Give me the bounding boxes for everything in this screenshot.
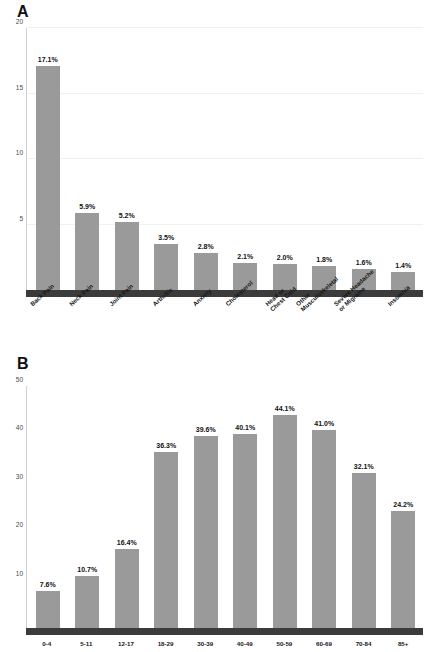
bar[interactable]: 41.0% xyxy=(312,430,336,628)
y-axis-tick-label: 40 xyxy=(16,424,23,431)
bar[interactable]: 7.6% xyxy=(36,591,60,628)
bar-slot: 1.8% xyxy=(305,28,345,290)
bar-value-label: 1.4% xyxy=(395,262,411,270)
bar[interactable]: 3.5% xyxy=(154,244,178,290)
bar-slot: 10.7% xyxy=(68,386,108,628)
x-tick-slot: 12-17 xyxy=(106,638,146,652)
x-tick-slot: Cholesterol xyxy=(225,298,265,344)
bar-value-label: 2.8% xyxy=(198,243,214,251)
bar[interactable]: 39.6% xyxy=(194,436,218,628)
panel-b-axis-baseline xyxy=(26,628,423,635)
bar[interactable]: 17.1% xyxy=(36,66,60,290)
bar[interactable]: 16.4% xyxy=(115,549,139,628)
bar-series: 7.6%10.7%16.4%36.3%39.6%40.1%44.1%41.0%3… xyxy=(28,386,423,628)
x-tick-slot: Back Pain xyxy=(27,298,67,344)
bar-slot: 16.4% xyxy=(107,386,147,628)
y-axis-tick-label: 20 xyxy=(16,521,23,528)
bar[interactable]: 44.1% xyxy=(273,415,297,628)
x-axis-tick-label: 85+ xyxy=(383,640,423,648)
x-tick-slot: Insomnia xyxy=(383,298,423,344)
x-tick-slot: Joint Pain xyxy=(106,298,146,344)
y-axis-tick-label: 10 xyxy=(16,149,23,156)
panel-a-x-tick-labels: Back PainNeck PainJoint PainArthritisAnx… xyxy=(27,298,423,344)
panel-b: B 10203040507.6%10.7%16.4%36.3%39.6%40.1… xyxy=(0,350,425,652)
bar[interactable]: 5.9% xyxy=(75,213,99,290)
bar-value-label: 2.0% xyxy=(277,254,293,262)
bar-slot: 36.3% xyxy=(147,386,187,628)
bar-value-label: 44.1% xyxy=(275,405,295,413)
y-axis-tick-label: 10 xyxy=(16,569,23,576)
bar-slot: 1.4% xyxy=(384,28,424,290)
x-tick-slot: Severe Headacheor Migraine xyxy=(344,298,384,344)
bar-slot: 2.8% xyxy=(186,28,226,290)
x-axis-tick-label: 0-4 xyxy=(27,640,67,648)
x-tick-slot: Neck Pain xyxy=(67,298,107,344)
bar-value-label: 41.0% xyxy=(314,420,334,428)
y-axis-tick-label: 30 xyxy=(16,472,23,479)
y-axis-tick-label: 5 xyxy=(19,214,23,221)
bar-slot: 2.1% xyxy=(226,28,266,290)
bar[interactable]: 24.2% xyxy=(391,511,415,628)
bar-value-label: 16.4% xyxy=(117,539,137,547)
bar-value-label: 17.1% xyxy=(38,56,58,64)
x-tick-slot: 5-11 xyxy=(67,638,107,652)
x-tick-slot: 60-69 xyxy=(304,638,344,652)
x-axis-tick-label: 12-17 xyxy=(106,640,146,648)
bar-slot: 40.1% xyxy=(226,386,266,628)
panel-a-plot-area: 510152017.1%5.9%5.2%3.5%2.8%2.1%2.0%1.8%… xyxy=(26,28,423,290)
bar-slot: 32.1% xyxy=(344,386,384,628)
y-axis-tick-label: 20 xyxy=(16,18,23,25)
bar-value-label: 3.5% xyxy=(158,234,174,242)
bar-slot: 5.2% xyxy=(107,28,147,290)
bar-value-label: 1.8% xyxy=(316,256,332,264)
bar[interactable]: 2.8% xyxy=(194,253,218,290)
panel-a: A 510152017.1%5.9%5.2%3.5%2.8%2.1%2.0%1.… xyxy=(0,0,425,348)
x-tick-slot: 85+ xyxy=(383,638,423,652)
bar-series: 17.1%5.9%5.2%3.5%2.8%2.1%2.0%1.8%1.6%1.4… xyxy=(28,28,423,290)
bar-value-label: 10.7% xyxy=(77,566,97,574)
x-tick-slot: 0-4 xyxy=(27,638,67,652)
x-tick-slot: 18-29 xyxy=(146,638,186,652)
bar-slot: 7.6% xyxy=(28,386,68,628)
panel-b-letter: B xyxy=(17,356,29,372)
bar-value-label: 5.2% xyxy=(119,212,135,220)
x-tick-slot: 40-49 xyxy=(225,638,265,652)
bar-slot: 3.5% xyxy=(147,28,187,290)
bar-value-label: 1.6% xyxy=(356,259,372,267)
x-tick-slot: 50-59 xyxy=(265,638,305,652)
bar-slot: 5.9% xyxy=(68,28,108,290)
x-axis-tick-label: 60-69 xyxy=(304,640,344,648)
bar-value-label: 36.3% xyxy=(156,442,176,450)
figure-container: A 510152017.1%5.9%5.2%3.5%2.8%2.1%2.0%1.… xyxy=(0,0,425,652)
x-axis-tick-label: 50-59 xyxy=(265,640,305,648)
y-axis-tick-label: 15 xyxy=(16,83,23,90)
bar[interactable]: 36.3% xyxy=(154,452,178,628)
bar-slot: 24.2% xyxy=(384,386,424,628)
x-tick-slot: Arthritis xyxy=(146,298,186,344)
bar-value-label: 40.1% xyxy=(235,424,255,432)
x-axis-tick-label: 40-49 xyxy=(225,640,265,648)
bar-value-label: 32.1% xyxy=(354,463,374,471)
x-axis-tick-label: 30-39 xyxy=(185,640,225,648)
x-axis-tick-label: 70-84 xyxy=(344,640,384,648)
bar-slot: 39.6% xyxy=(186,386,226,628)
x-tick-slot: Anxiety xyxy=(185,298,225,344)
bar[interactable]: 40.1% xyxy=(233,434,257,628)
bar[interactable]: 32.1% xyxy=(352,473,376,628)
panel-b-x-tick-labels: 0-45-1112-1718-2930-3940-4950-5960-6970-… xyxy=(27,638,423,652)
bar-value-label: 39.6% xyxy=(196,426,216,434)
bar-slot: 17.1% xyxy=(28,28,68,290)
panel-b-plot-area: 10203040507.6%10.7%16.4%36.3%39.6%40.1%4… xyxy=(26,386,423,628)
bar-value-label: 5.9% xyxy=(79,203,95,211)
bar-value-label: 2.1% xyxy=(237,253,253,261)
bar-value-label: 7.6% xyxy=(40,581,56,589)
x-tick-slot: 70-84 xyxy=(344,638,384,652)
bar-slot: 1.6% xyxy=(344,28,384,290)
bar-slot: 2.0% xyxy=(265,28,305,290)
bar-slot: 41.0% xyxy=(305,386,345,628)
bar[interactable]: 5.2% xyxy=(115,222,139,290)
x-tick-slot: 30-39 xyxy=(185,638,225,652)
x-axis-tick-label: 5-11 xyxy=(67,640,107,648)
x-axis-tick-label: 18-29 xyxy=(146,640,186,648)
bar[interactable]: 10.7% xyxy=(75,576,99,628)
